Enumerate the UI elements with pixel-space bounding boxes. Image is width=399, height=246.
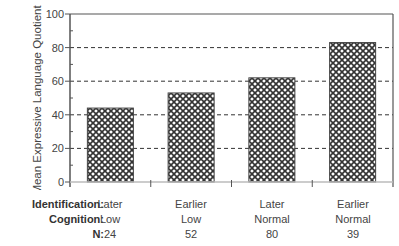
cat-1-identification: Later	[70, 198, 150, 210]
cat-4-n: 39	[313, 228, 393, 240]
bar	[168, 93, 214, 182]
y-tick-label: 60	[52, 75, 64, 87]
cat-2-identification: Earlier	[151, 198, 231, 210]
y-tick-label: 100	[46, 8, 64, 20]
y-tick-label: 40	[52, 109, 64, 121]
bar	[87, 108, 133, 182]
cat-2-cognition: Low	[151, 213, 231, 225]
cat-1-cognition: Low	[70, 213, 150, 225]
y-tick-label: 80	[52, 42, 64, 54]
bars	[87, 43, 375, 182]
cat-4-cognition: Normal	[313, 213, 393, 225]
bar-chart: 020406080100 Mean Expressive Language Qu…	[0, 0, 399, 190]
y-tick-label: 0	[58, 176, 64, 188]
y-axis-label: Mean Expressive Language Quotient	[31, 5, 43, 190]
cat-2-n: 52	[151, 228, 231, 240]
cat-3-cognition: Normal	[232, 213, 312, 225]
cat-3-n: 80	[232, 228, 312, 240]
bar	[330, 43, 376, 182]
cat-4-identification: Earlier	[313, 198, 393, 210]
bar	[249, 78, 295, 182]
y-tick-label: 20	[52, 142, 64, 154]
cat-3-identification: Later	[232, 198, 312, 210]
cat-1-n: 24	[70, 228, 150, 240]
